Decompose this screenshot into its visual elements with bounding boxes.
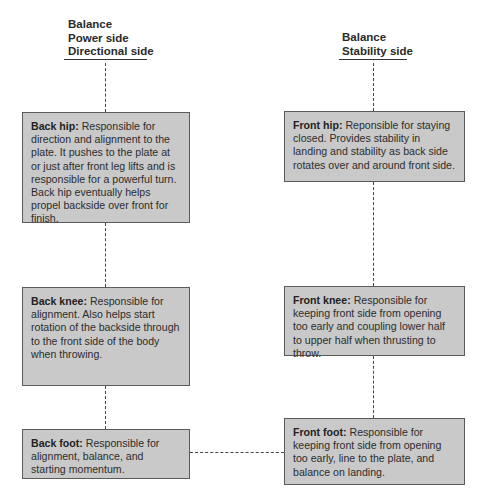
back-hip-text: Responsible for direction and alignment … [31, 120, 176, 224]
connector-back-knee-to-back-foot [105, 386, 106, 429]
front-hip-title: Front hip: [293, 119, 345, 131]
connector-right-header-to-front-hip [373, 63, 374, 111]
back-foot-box: Back foot: Responsible for alignment, ba… [22, 429, 190, 479]
connector-left-header-to-back-hip [105, 63, 106, 112]
right-column-header: Balance Stability side [342, 31, 413, 58]
left-header-underline [64, 59, 147, 60]
left-header-line-2: Power side [68, 32, 154, 46]
connector-back-foot-to-front-foot [190, 452, 284, 453]
front-foot-title: Front foot: [293, 426, 349, 438]
connector-front-hip-to-front-knee [373, 182, 374, 286]
right-header-underline [339, 59, 407, 60]
front-knee-title: Front knee: [293, 294, 354, 306]
back-knee-title: Back knee: [31, 295, 90, 307]
connector-front-knee-to-front-foot [373, 356, 374, 418]
left-header-line-1: Balance [68, 18, 154, 32]
connector-back-hip-to-back-knee [105, 223, 106, 287]
back-knee-box: Back knee: Responsible for alignment. Al… [22, 287, 190, 386]
front-knee-box: Front knee: Responsible for keeping fron… [284, 286, 465, 356]
front-hip-box: Front hip: Reponsible for staying closed… [284, 111, 465, 182]
back-hip-title: Back hip: [31, 120, 82, 132]
front-foot-box: Front foot: Responsible for keeping fron… [284, 418, 465, 485]
back-hip-box: Back hip: Responsible for direction and … [22, 112, 190, 223]
right-header-line-2: Stability side [342, 45, 413, 59]
left-column-header: Balance Power side Directional side [68, 18, 154, 59]
right-header-line-1: Balance [342, 31, 413, 45]
back-foot-title: Back foot: [31, 437, 86, 449]
left-header-line-3: Directional side [68, 45, 154, 59]
